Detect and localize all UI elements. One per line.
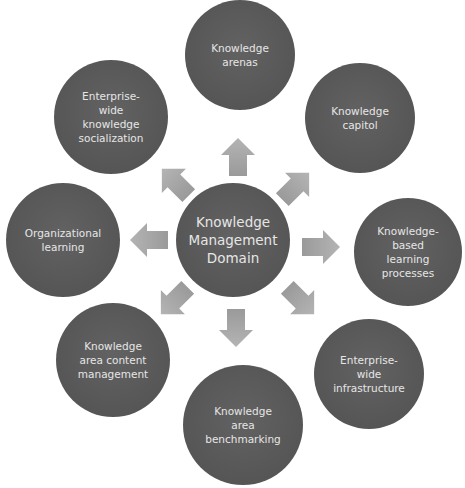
- node-bottom: Knowledgeareabenchmarking: [183, 365, 303, 485]
- node-bottom-label-line: area: [231, 419, 254, 431]
- node-top: Knowledgearenas: [185, 0, 295, 110]
- node-bottom-left-label-line: Knowledge: [84, 340, 142, 352]
- arrow-up-icon: [221, 138, 255, 176]
- node-top-right-label-line: capitol: [342, 119, 377, 131]
- node-right: Knowledge-basedlearningprocesses: [354, 198, 462, 306]
- arrow-up-right-icon: [270, 161, 321, 212]
- node-top-right-label-line: Knowledge: [331, 105, 389, 117]
- node-left-label-line: Organizational: [25, 227, 101, 239]
- node-top-label-line: Knowledge: [211, 42, 269, 54]
- arrow-down-right-icon: [275, 275, 326, 326]
- node-bottom-label-line: benchmarking: [205, 433, 281, 445]
- center-node-label-line: Management: [189, 232, 278, 248]
- knowledge-management-diagram: KnowledgearenasKnowledgecapitolKnowledge…: [0, 0, 465, 488]
- node-bottom-left-label-line: management: [78, 368, 148, 380]
- node-bottom-right-label-line: infrastructure: [333, 382, 405, 394]
- node-bottom-right: Enterprise-wideinfrastructure: [314, 319, 424, 429]
- arrow-left-icon: [130, 223, 168, 257]
- center-node-label-line: Knowledge: [196, 214, 270, 230]
- node-top-label-line: arenas: [222, 56, 258, 68]
- arrow-right-icon: [302, 230, 340, 264]
- node-top-left-label-line: Enterprise-: [82, 90, 140, 102]
- node-top-right: Knowledgecapitol: [305, 63, 415, 173]
- node-left: Organizationallearning: [6, 183, 120, 297]
- center-node: KnowledgeManagementDomain: [176, 183, 290, 297]
- node-right-label-line: based: [392, 239, 424, 251]
- node-left-label-line: learning: [42, 241, 85, 253]
- node-right-label-line: Knowledge-: [377, 225, 439, 237]
- node-right-label-line: processes: [382, 267, 434, 279]
- node-top-left-label-line: socialization: [79, 132, 144, 144]
- node-bottom-left: Knowledgearea contentmanagement: [56, 303, 170, 417]
- node-top-left-label-line: wide: [99, 104, 124, 116]
- node-bottom-label-line: Knowledge: [214, 405, 272, 417]
- arrow-down-left-icon: [149, 275, 200, 326]
- node-bottom-right-label-line: Enterprise-: [340, 354, 398, 366]
- node-top-left-label-line: knowledge: [83, 118, 140, 130]
- center-node-label-line: Domain: [207, 250, 259, 266]
- node-top-left: Enterprise-wideknowledgesocialization: [54, 60, 168, 174]
- node-bottom-left-label-line: area content: [80, 354, 147, 366]
- node-bottom-right-label-line: wide: [357, 368, 382, 380]
- nodes-layer: KnowledgearenasKnowledgecapitolKnowledge…: [6, 0, 462, 485]
- node-right-label-line: learning: [387, 253, 430, 265]
- arrow-down-icon: [219, 309, 253, 347]
